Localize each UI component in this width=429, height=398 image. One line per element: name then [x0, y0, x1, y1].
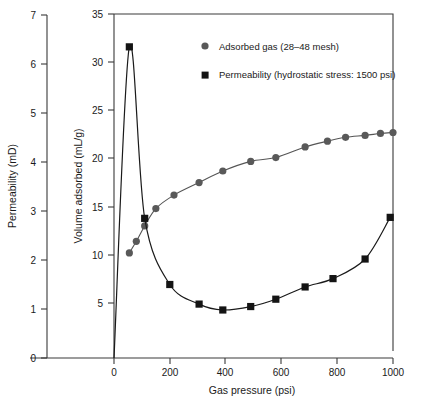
legend-label-permeability: Permeability (hydrostatic stress: 1500 p…	[219, 69, 395, 80]
left-tick-label-3: 3	[30, 206, 36, 217]
plot-frame-path	[114, 14, 393, 351]
left-axis-tick-labels: 0 1 2 3 4 5 6 7	[30, 10, 36, 364]
x-axis-ticks	[114, 358, 393, 364]
x-tick-label-1000: 1000	[382, 367, 405, 378]
data-point-square	[272, 296, 279, 303]
legend-square-marker-icon	[202, 72, 209, 79]
data-point-circle	[377, 130, 384, 137]
plot-frame	[114, 14, 393, 351]
left-tick-label-4: 4	[30, 157, 36, 168]
data-point-circle	[170, 192, 177, 199]
left-axis-title: Permeability (mD)	[6, 144, 18, 228]
left-tick-label-7: 7	[30, 10, 36, 21]
data-point-square	[387, 214, 394, 221]
left-tick-label-5: 5	[30, 108, 36, 119]
legend-circle-marker-icon	[201, 42, 208, 49]
inner-axis-title: Volume adsorbed (mL/g)	[72, 129, 84, 244]
inner-tick-label-15: 15	[92, 202, 104, 213]
x-tick-label-600: 600	[273, 367, 290, 378]
volume-adsorbed-axis: 5 10 15 20 25 30 35 Volume adsorbed (mL/…	[72, 9, 114, 358]
data-point-circle	[126, 249, 133, 256]
chart-canvas: 0 200 400 600 800 1000 Gas pressure (psi…	[0, 0, 429, 398]
data-point-circle	[195, 179, 202, 186]
data-point-square	[362, 255, 369, 262]
data-point-circle	[272, 154, 279, 161]
gas-pressure-axis: 0 200 400 600 800 1000 Gas pressure (psi…	[30, 358, 405, 396]
series-layer	[114, 43, 397, 358]
x-tick-label-800: 800	[329, 367, 346, 378]
data-point-circle	[389, 129, 396, 136]
data-point-circle	[362, 132, 369, 139]
data-point-square	[219, 306, 226, 313]
data-point-circle	[219, 167, 226, 174]
inner-tick-label-25: 25	[92, 105, 104, 116]
data-point-square	[196, 301, 203, 308]
left-tick-label-6: 6	[30, 59, 36, 70]
inner-tick-label-5: 5	[97, 298, 103, 309]
legend-entry-adsorbed-gas[interactable]: Adsorbed gas (28–48 mesh)	[201, 41, 338, 52]
left-tick-label-0: 0	[30, 353, 36, 364]
data-point-circle	[342, 134, 349, 141]
left-tick-label-2: 2	[30, 255, 36, 266]
data-point-circle	[324, 138, 331, 145]
data-point-square	[166, 281, 173, 288]
inner-tick-label-30: 30	[92, 57, 104, 68]
data-point-square	[329, 275, 336, 282]
inner-tick-label-10: 10	[92, 250, 104, 261]
chart-figure: 0 200 400 600 800 1000 Gas pressure (psi…	[0, 0, 429, 398]
permeability-axis: 0 1 2 3 4 5 6 7 Permeability (mD)	[6, 10, 47, 364]
x-tick-label-0: 0	[111, 367, 117, 378]
inner-axis-ticks	[108, 14, 114, 303]
data-point-square	[141, 215, 148, 222]
data-point-circle	[302, 143, 309, 150]
x-tick-label-200: 200	[162, 367, 179, 378]
series-permeability	[114, 43, 394, 358]
data-point-circle	[133, 238, 140, 245]
series-adsorbed-gas	[126, 129, 397, 257]
inner-axis-tick-labels: 5 10 15 20 25 30 35	[92, 9, 104, 309]
series-line	[114, 44, 390, 358]
left-tick-label-1: 1	[30, 304, 36, 315]
data-point-circle	[141, 222, 148, 229]
data-point-circle	[152, 205, 159, 212]
legend-entry-permeability[interactable]: Permeability (hydrostatic stress: 1500 p…	[202, 69, 396, 80]
inner-tick-label-35: 35	[92, 9, 104, 20]
inner-tick-label-20: 20	[92, 153, 104, 164]
data-point-square	[302, 283, 309, 290]
legend-label-adsorbed-gas: Adsorbed gas (28–48 mesh)	[219, 41, 339, 52]
x-axis-title: Gas pressure (psi)	[209, 384, 295, 396]
data-point-square	[126, 43, 133, 50]
x-tick-label-400: 400	[217, 367, 234, 378]
data-point-square	[247, 303, 254, 310]
series-line	[129, 132, 393, 252]
left-axis-ticks	[41, 15, 47, 358]
chart-legend: Adsorbed gas (28–48 mesh) Permeability (…	[201, 41, 395, 81]
x-axis-tick-labels: 0 200 400 600 800 1000	[111, 367, 404, 378]
data-point-circle	[247, 158, 254, 165]
